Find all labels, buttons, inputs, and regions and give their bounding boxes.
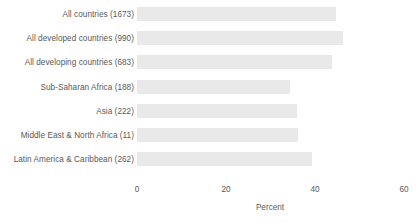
- plot-area: All countries (1673)All developed countr…: [0, 0, 417, 183]
- category-label: All developing countries (683): [25, 58, 134, 67]
- bar-chart: All countries (1673)All developed countr…: [0, 0, 417, 223]
- bar: [137, 80, 290, 94]
- bar: [137, 128, 298, 142]
- category-label: All developed countries (990): [27, 33, 135, 42]
- bar: [137, 7, 336, 21]
- bar-row: All developing countries (683): [0, 50, 417, 74]
- bar: [137, 31, 343, 45]
- bar: [137, 55, 332, 69]
- category-label: Asia (222): [96, 106, 134, 115]
- bar-row: All countries (1673): [0, 2, 417, 26]
- x-axis: Percent 0204060: [0, 183, 417, 223]
- x-tick-label: 60: [399, 185, 408, 194]
- bar-row: All developed countries (990): [0, 26, 417, 50]
- x-tick-label: 20: [221, 185, 230, 194]
- category-label: Latin America & Caribbean (262): [14, 155, 134, 164]
- category-label: Sub-Saharan Africa (188): [40, 82, 134, 91]
- bar-row: Middle East & North Africa (11): [0, 123, 417, 147]
- category-label: All countries (1673): [62, 9, 134, 18]
- bar-row: Asia (222): [0, 99, 417, 123]
- x-tick-label: 40: [310, 185, 319, 194]
- category-label: Middle East & North Africa (11): [21, 131, 134, 140]
- x-axis-title: Percent: [256, 203, 284, 212]
- bar: [137, 104, 297, 118]
- bar-row: Latin America & Caribbean (262): [0, 147, 417, 171]
- bar-row: Sub-Saharan Africa (188): [0, 74, 417, 98]
- x-tick-label: 0: [135, 185, 140, 194]
- bar: [137, 152, 312, 166]
